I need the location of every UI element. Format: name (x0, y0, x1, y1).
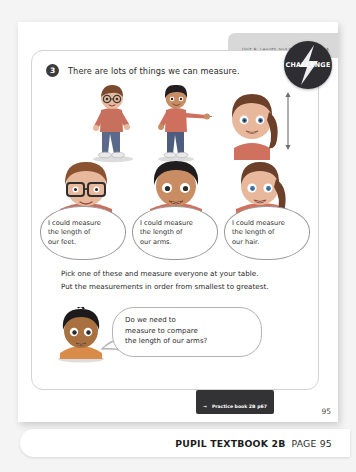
practice-book-tag[interactable]: → Practice book 2B p67 (196, 390, 274, 414)
girl-with-ponytail-hair (222, 86, 294, 162)
bubble-feet-line3: our feet. (48, 238, 76, 246)
textbook-page: Unit 8: Length and height; Lesson 4 3 Th… (18, 22, 338, 422)
speech-bubble-feet: I could measure the length of our feet. (40, 206, 126, 260)
question-number-badge: 3 (46, 64, 59, 77)
instruction-line-1: Pick one of these and measure everyone a… (61, 269, 301, 280)
speech-bubbles-row: I could measure the length of our feet. … (40, 206, 310, 268)
bottom-dialogue-zone: Do we need to measure to compare the len… (42, 301, 312, 379)
bubble-hair-line3: our hair. (232, 238, 259, 246)
screenshot-canvas: Unit 8: Length and height; Lesson 4 3 Th… (0, 0, 356, 472)
bubble-feet-line2: the length of (48, 228, 90, 236)
footer-banner: PUPIL TEXTBOOK 2B PAGE 95 (20, 429, 350, 457)
bubble-hair-line1: I could measure (232, 219, 285, 227)
footer-page-label: PAGE 95 (292, 438, 332, 449)
compare-line1: Do we need to (125, 316, 176, 324)
page-number: 95 (321, 407, 331, 416)
bubble-feet-line1: I could measure (48, 219, 101, 227)
bubble-arms-line1: I could measure (140, 219, 193, 227)
compare-line3: the length of our arms? (125, 337, 207, 345)
figures-row (32, 84, 318, 164)
boy-with-glasses-measuring-feet (84, 84, 142, 164)
bubble-arms-line3: our arms. (140, 238, 172, 246)
instructions-block: Pick one of these and measure everyone a… (61, 269, 301, 295)
speech-bubble-hair: I could measure the length of our hair. (224, 206, 310, 260)
question-text: There are lots of things we can measure. (68, 66, 240, 76)
practice-book-arrow-icon: → (203, 404, 207, 409)
boy-pointing-arm (150, 84, 214, 164)
footer-title: PUPIL TEXTBOOK 2B (175, 438, 285, 449)
challenge-badge-label: CHALLENGE (285, 61, 330, 69)
bubble-hair-line2: the length of (232, 228, 274, 236)
question-row: 3 There are lots of things we can measur… (46, 64, 240, 77)
activity-panel: 3 There are lots of things we can measur… (31, 50, 319, 390)
instruction-line-2: Put the measurements in order from small… (61, 282, 301, 293)
practice-book-label: Practice book 2B p67 (212, 404, 267, 409)
bubble-arms-line2: the length of (140, 228, 182, 236)
compare-line2: measure to compare (125, 327, 198, 335)
challenge-badge: CHALLENGE (284, 41, 332, 89)
speech-bubble-arms: I could measure the length of our arms. (132, 206, 218, 260)
speech-bubble-compare: Do we need to measure to compare the len… (112, 307, 262, 357)
